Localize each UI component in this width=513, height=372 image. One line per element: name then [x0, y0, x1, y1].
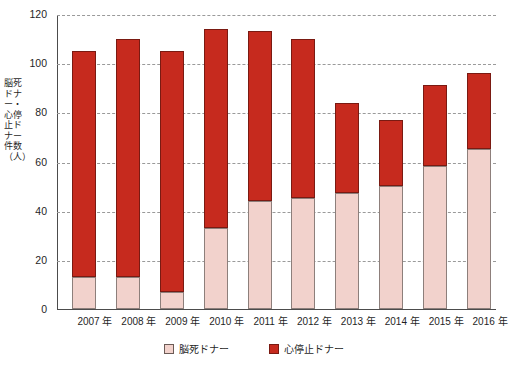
- y-tick-label: 60: [1, 156, 47, 168]
- bar-segment[interactable]: [72, 277, 96, 309]
- bar-segment[interactable]: [335, 193, 359, 309]
- bar-segment[interactable]: [379, 120, 403, 186]
- plot-area: [57, 15, 496, 310]
- legend-swatch-red-icon: [269, 344, 279, 354]
- legend-item[interactable]: 心停止ドナー: [269, 341, 344, 356]
- bar-segment[interactable]: [160, 292, 184, 309]
- x-axis-tick-labels: 2007 年2008 年2009 年2010 年2011 年2012 年2013…: [57, 313, 496, 331]
- y-axis-tick-labels: 020406080100120: [0, 15, 50, 310]
- bar-segment[interactable]: [160, 51, 184, 292]
- bar-segment[interactable]: [467, 149, 491, 309]
- bar-segment[interactable]: [204, 29, 228, 228]
- bar-series-container: [58, 15, 496, 309]
- y-tick-label: 40: [1, 205, 47, 217]
- legend-label: 心停止ドナー: [284, 341, 344, 356]
- bar-segment[interactable]: [248, 201, 272, 309]
- y-tick-label: 20: [1, 254, 47, 266]
- legend-item[interactable]: 脳死ドナー: [164, 341, 229, 356]
- y-tick-label: 120: [1, 8, 47, 20]
- chart-legend: 脳死ドナー心停止ドナー: [0, 341, 508, 356]
- bar-segment[interactable]: [248, 31, 272, 201]
- y-tick-label: 100: [1, 57, 47, 69]
- legend-label: 脳死ドナー: [179, 341, 229, 356]
- bar-segment[interactable]: [379, 186, 403, 309]
- x-tick-label: 2016 年: [464, 313, 513, 328]
- y-tick-label: 0: [1, 303, 47, 315]
- bar-segment[interactable]: [116, 39, 140, 277]
- bar-segment[interactable]: [291, 39, 315, 199]
- bar-segment[interactable]: [423, 166, 447, 309]
- bar-segment[interactable]: [72, 51, 96, 277]
- bar-segment[interactable]: [335, 103, 359, 194]
- bar-segment[interactable]: [423, 85, 447, 166]
- y-tick-label: 80: [1, 106, 47, 118]
- bar-segment[interactable]: [116, 277, 140, 309]
- x-axis-line: [57, 309, 496, 310]
- bar-segment[interactable]: [467, 73, 491, 149]
- bar-segment[interactable]: [291, 198, 315, 309]
- legend-swatch-pink-icon: [164, 344, 174, 354]
- bar-segment[interactable]: [204, 228, 228, 309]
